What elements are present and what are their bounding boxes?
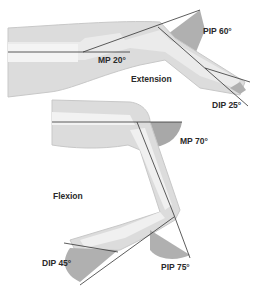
label-pip-flexion: PIP 75° xyxy=(161,262,190,272)
label-dip-flexion: DIP 45° xyxy=(42,258,71,268)
label-extension: Extension xyxy=(131,74,172,84)
label-pip-extension: PIP 60° xyxy=(203,26,232,36)
finger-diagram xyxy=(0,0,257,286)
label-mp-flexion: MP 70° xyxy=(180,136,208,146)
label-dip-extension: DIP 25° xyxy=(212,100,241,110)
label-flexion: Flexion xyxy=(53,191,83,201)
extension-finger xyxy=(8,10,246,97)
label-mp-extension: MP 20° xyxy=(98,55,126,65)
